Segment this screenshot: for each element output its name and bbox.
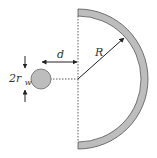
radius-label: R [94,46,103,59]
distance-label: d [57,48,64,61]
well-circle [31,69,51,89]
diameter-label-sub: w [25,78,32,87]
well-near-semicircular-boundary-diagram: d R 2r w [0,0,157,158]
semicircular-shell [78,9,148,149]
diameter-label-coeff: 2r [8,72,22,85]
diameter-label: 2r w [8,72,32,87]
